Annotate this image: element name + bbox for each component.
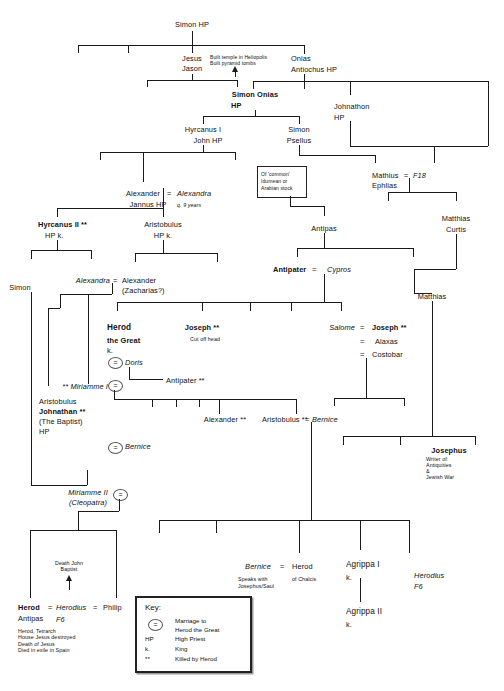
connector bbox=[297, 248, 298, 257]
connector bbox=[414, 269, 456, 270]
node-aristobulus-hp: Aristobulus bbox=[144, 221, 182, 230]
connector bbox=[48, 308, 49, 386]
connector bbox=[202, 302, 203, 311]
connector bbox=[299, 116, 300, 124]
connector bbox=[203, 116, 204, 124]
key-marriage-label-2: Herod the Great bbox=[175, 626, 219, 634]
connector bbox=[413, 248, 414, 257]
connector bbox=[176, 399, 177, 407]
node-joseph-salome: Joseph ** bbox=[372, 324, 407, 333]
arrow-icon bbox=[66, 575, 72, 581]
node-simon-onias: Simon Onias bbox=[232, 91, 278, 100]
connector bbox=[290, 206, 324, 207]
connector bbox=[235, 152, 236, 160]
node-simon-psellus: Simon bbox=[288, 126, 309, 135]
node-simon-onias-hp: HP bbox=[231, 102, 241, 111]
node-salome: Salome bbox=[329, 324, 355, 333]
connector bbox=[299, 145, 300, 155]
node-costobar: Costobar bbox=[372, 351, 403, 360]
node-simon-hp: Simon HP bbox=[175, 21, 209, 30]
connector bbox=[388, 192, 389, 201]
connector bbox=[341, 302, 342, 311]
node-alexander-zacharias: Alexander bbox=[122, 277, 156, 286]
marriage-symbol-miriamme-i: = bbox=[108, 380, 123, 392]
node-cleopatra: (Cleopatra) bbox=[69, 499, 107, 508]
connector bbox=[291, 302, 292, 311]
connector bbox=[143, 152, 144, 182]
connector bbox=[57, 208, 163, 209]
node-herod-the-great-3: k. bbox=[107, 347, 113, 356]
connector bbox=[192, 45, 193, 53]
connector bbox=[304, 74, 305, 81]
node-cypros: Cypros bbox=[327, 266, 351, 275]
node-antiochus-hp: Antiochus HP bbox=[291, 66, 337, 75]
connector bbox=[350, 121, 351, 146]
connector bbox=[290, 196, 291, 206]
connector bbox=[87, 470, 88, 485]
marriage-equals: = bbox=[93, 604, 97, 613]
connector bbox=[114, 390, 115, 399]
annotation-idumean-3: Arabian stock bbox=[261, 185, 293, 191]
node-hyrcanus-ii: Hyrcanus II ** bbox=[38, 221, 87, 230]
marriage-equals: = bbox=[305, 416, 309, 425]
connector bbox=[60, 294, 112, 295]
connector bbox=[219, 399, 220, 414]
node-johnathan-baptist: Johnathan ** bbox=[39, 408, 85, 417]
connector bbox=[488, 81, 489, 95]
connector bbox=[135, 253, 217, 254]
note-josephus-4: Jewish War bbox=[426, 474, 454, 480]
connector bbox=[78, 45, 304, 46]
annotation-idumean-2: Idumean or bbox=[261, 178, 287, 184]
connector bbox=[432, 301, 433, 436]
marriage-symbol-doris: = bbox=[108, 357, 123, 369]
connector bbox=[78, 511, 119, 512]
connector bbox=[31, 485, 87, 486]
connector bbox=[414, 293, 432, 294]
node-herod-chalcis-sub: of Chalcis bbox=[292, 576, 316, 582]
connector bbox=[456, 234, 457, 269]
connector bbox=[163, 240, 164, 253]
connector bbox=[78, 45, 79, 53]
connector bbox=[434, 146, 435, 163]
key-killed-label: Killed by Herod bbox=[175, 655, 217, 663]
connector bbox=[100, 152, 235, 153]
connector bbox=[299, 520, 300, 553]
connector bbox=[414, 269, 415, 279]
connector bbox=[360, 520, 361, 550]
connector bbox=[78, 511, 79, 530]
marriage-equals: = bbox=[167, 190, 171, 199]
node-johnathon: Johnathon bbox=[334, 103, 369, 112]
node-josephus: Josephus bbox=[431, 447, 466, 456]
marriage-equals: = bbox=[360, 338, 364, 347]
node-antipater: Antipater bbox=[273, 266, 306, 275]
node-hyrcanus-i: Hyrcanus I bbox=[185, 126, 221, 135]
key-marriage-symbol: = bbox=[148, 619, 163, 631]
key-hp-label: High Priest bbox=[175, 635, 205, 643]
node-bernice-herod: Bernice bbox=[125, 443, 151, 452]
node-onias: Onias bbox=[291, 55, 311, 64]
node-johnathon-hp: HP bbox=[334, 114, 344, 123]
connector bbox=[152, 399, 153, 407]
connector bbox=[163, 188, 164, 208]
connector bbox=[129, 379, 163, 380]
note-bernice-2: Josephus/Saul bbox=[238, 583, 274, 589]
connector bbox=[475, 436, 476, 445]
node-mathius-f18: F18 bbox=[413, 172, 426, 181]
connector bbox=[159, 520, 409, 521]
note-antipas-2: House Jesus destroyed bbox=[18, 634, 75, 640]
key-hp-symbol: HP bbox=[145, 635, 154, 643]
connector bbox=[192, 31, 193, 45]
connector bbox=[237, 80, 238, 87]
node-ephlias: Ephlias bbox=[372, 182, 397, 191]
connector bbox=[31, 250, 91, 251]
node-agrippa-ii: Agrippa II bbox=[346, 608, 382, 617]
node-agrippa-i-k: k. bbox=[346, 574, 352, 583]
node-miriamme-ii: Miriamme II bbox=[68, 489, 108, 498]
connector bbox=[217, 253, 218, 262]
node-herod-the-great: Herod bbox=[107, 324, 131, 333]
connector bbox=[31, 250, 32, 259]
node-alaxas: Alaxas bbox=[375, 338, 398, 347]
node-alexandra2: Alexandra bbox=[76, 277, 110, 286]
node-alexander-jannus: Alexander bbox=[126, 190, 160, 199]
connector bbox=[119, 499, 120, 511]
